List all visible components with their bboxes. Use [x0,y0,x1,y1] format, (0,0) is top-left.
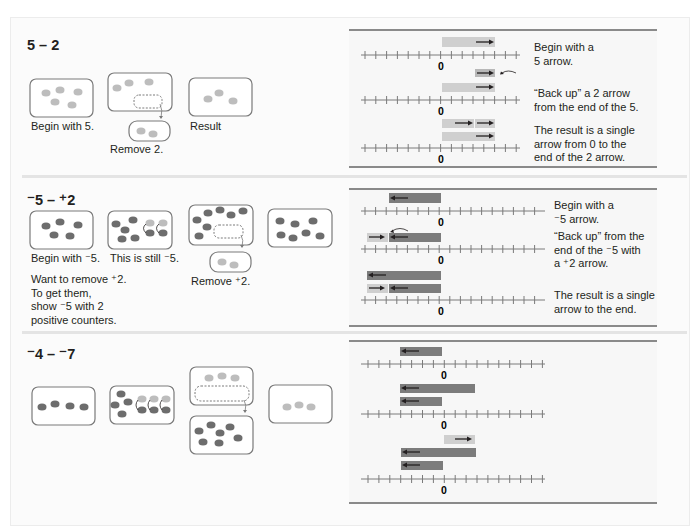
number-line-ticks [0,0,695,528]
